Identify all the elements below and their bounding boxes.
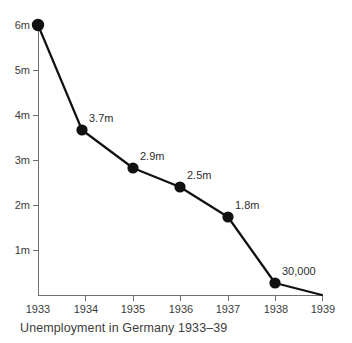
point-label-1936: 2.5m [187, 170, 211, 181]
unemployment-line-chart: 6m 5m 4m 3m 2m 1m 1933 1934 1935 1936 19… [0, 0, 352, 343]
y-axis-label-3m: 3m [4, 155, 30, 166]
y-axis-label-6m: 6m [4, 20, 30, 31]
y-axis-label-4m: 4m [4, 110, 30, 121]
data-point-1937 [222, 211, 233, 222]
x-axis-label-1939: 1939 [301, 304, 345, 315]
x-axis-label-1934: 1934 [64, 304, 108, 315]
y-axis-label-2m: 2m [4, 200, 30, 211]
point-label-1938: 30,000 [282, 266, 316, 277]
chart-caption: Unemployment in Germany 1933–39 [20, 322, 227, 335]
x-axis-label-1937: 1937 [206, 304, 250, 315]
y-axis-label-1m: 1m [4, 245, 30, 256]
data-point-1935 [127, 162, 138, 173]
data-point-1934 [76, 124, 87, 135]
y-axis-label-5m: 5m [4, 65, 30, 76]
data-point-1936 [174, 181, 185, 192]
point-label-1935: 2.9m [140, 151, 164, 162]
unemployment-series-line [38, 25, 322, 295]
point-label-1937: 1.8m [235, 200, 259, 211]
x-axis-label-1933: 1933 [16, 304, 60, 315]
data-point-1938 [269, 277, 280, 288]
x-axis-label-1935: 1935 [111, 304, 155, 315]
x-axis-label-1938: 1938 [254, 304, 298, 315]
chart-plot-area [0, 0, 352, 343]
point-label-1934: 3.7m [89, 113, 113, 124]
x-axis-label-1936: 1936 [159, 304, 203, 315]
data-point-1933 [32, 19, 44, 31]
